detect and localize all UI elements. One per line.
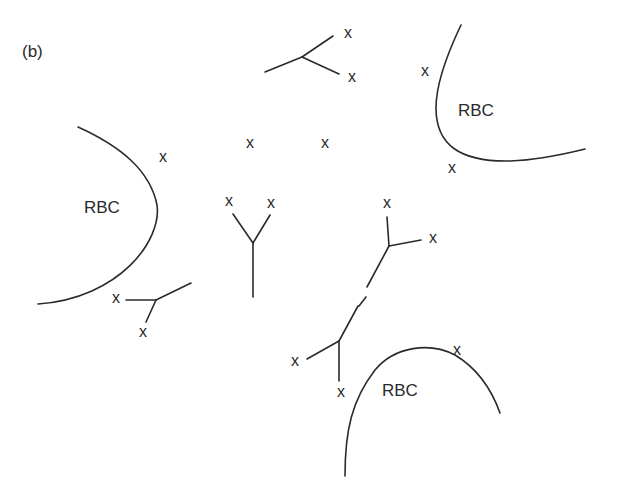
branch-segment — [253, 215, 270, 243]
markers: x x x x x x x x x x x x x x x x — [112, 24, 461, 400]
x-marker: x — [383, 194, 391, 211]
x-marker: x — [321, 134, 329, 151]
rbc-left: RBC — [38, 127, 157, 304]
x-marker: x — [267, 194, 275, 211]
x-marker: x — [291, 352, 299, 369]
branch-segment — [302, 36, 333, 57]
right-branch — [367, 217, 421, 287]
rbc-top-right-outline — [436, 25, 585, 161]
panel-label: (b) — [22, 42, 43, 61]
x-marker: x — [246, 134, 254, 151]
branch-segment — [233, 214, 253, 243]
connector-lower — [359, 297, 366, 306]
branch-segment — [389, 240, 421, 246]
x-marker: x — [159, 148, 167, 165]
rbc-top-right: RBC — [436, 25, 585, 161]
x-marker: x — [448, 159, 456, 176]
branch-segment — [146, 300, 156, 322]
x-marker: x — [344, 24, 352, 41]
branch-segment — [156, 283, 191, 300]
x-marker: x — [225, 192, 233, 209]
rbc-bottom-outline — [345, 348, 500, 476]
branch-segment — [265, 57, 302, 72]
branch-segment — [339, 306, 358, 341]
x-marker: x — [348, 68, 356, 85]
x-marker: x — [453, 341, 461, 358]
x-marker: x — [112, 289, 120, 306]
rbc-left-label: RBC — [84, 198, 120, 217]
branch-segment — [307, 341, 339, 359]
top-branch — [265, 36, 339, 74]
x-marker: x — [337, 383, 345, 400]
rbc-bottom: RBC — [345, 348, 500, 476]
branch-segment — [359, 297, 366, 306]
x-marker: x — [429, 229, 437, 246]
x-marker: x — [139, 323, 147, 340]
branch-segment — [302, 57, 339, 74]
x-marker: x — [421, 62, 429, 79]
branch-segment — [367, 246, 389, 287]
rbc-top-right-label: RBC — [458, 101, 494, 120]
y-branch — [233, 214, 270, 297]
rbc-bottom-label: RBC — [382, 381, 418, 400]
lower-branch — [307, 306, 358, 381]
bottom-left-branch — [126, 283, 191, 322]
diagram-canvas: (b) RBC RBC RBC x x x — [0, 0, 624, 504]
branch-segment — [387, 217, 389, 246]
